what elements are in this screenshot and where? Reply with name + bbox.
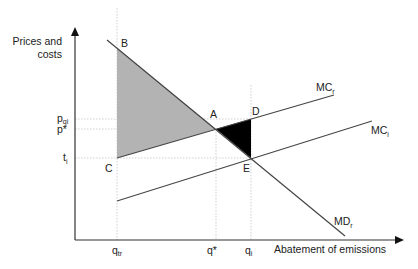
point-c-label: C — [105, 162, 113, 174]
y-tick-pstar: p* — [57, 123, 67, 135]
mcr-label: MCr — [316, 81, 335, 95]
x-tick-qtr: qtr — [112, 244, 123, 257]
x-tick-qstar: q* — [207, 244, 217, 256]
y-axis-label-line1: Prices and — [12, 35, 62, 47]
y-tick-ti: ti — [63, 151, 68, 165]
y-axis-arrow-icon — [71, 27, 79, 36]
point-d-label: D — [252, 105, 260, 117]
x-axis-arrow-icon — [395, 236, 404, 244]
x-tick-qi: qi — [245, 244, 253, 257]
x-axis-label: Abatement of emissions — [274, 243, 386, 255]
mdr-label: MDr — [334, 215, 353, 229]
abatement-diagram: Prices and costs Abatement of emissions … — [0, 0, 418, 269]
gray-triangle-BCA — [117, 48, 216, 158]
point-a-label: A — [210, 108, 217, 120]
mci-label: MCi — [371, 124, 389, 138]
y-axis-label-line2: costs — [37, 48, 62, 60]
point-b-label: B — [121, 37, 128, 49]
point-e-label: E — [243, 162, 250, 174]
black-triangle-ADE — [216, 119, 251, 158]
